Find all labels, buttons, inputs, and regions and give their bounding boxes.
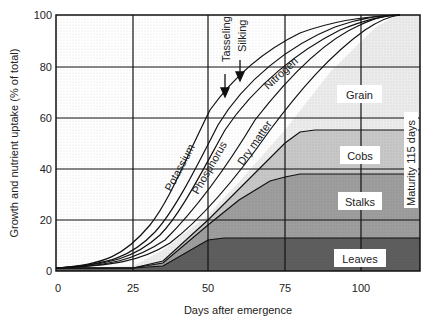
x-tick: 25 [127,282,139,294]
maturity-label: Maturity 115 days [404,112,418,208]
x-tick: 100 [352,282,370,294]
svg-text:Cobs: Cobs [347,150,373,162]
svg-text:Maturity 115 days: Maturity 115 days [405,119,417,206]
y-tick: 100 [34,9,52,21]
y-axis-title: Growth and nutrient uptake (% of total) [8,49,20,238]
y-tick: 0 [46,265,52,277]
chart: 0 20 40 60 80 100 0 25 50 75 100 Days af… [0,0,434,323]
area-label-cobs: Cobs [340,146,380,164]
y-tick: 80 [40,61,52,73]
y-tick: 20 [40,214,52,226]
x-tick: 75 [279,282,291,294]
area-label-grain: Grain [337,85,382,103]
svg-text:Grain: Grain [346,89,373,101]
y-axis-ticks: 0 20 40 60 80 100 [34,9,52,277]
y-tick: 60 [40,112,52,124]
x-tick: 50 [202,282,214,294]
stacked-areas [56,15,420,271]
area-label-leaves: Leaves [334,249,386,267]
area-label-stalks: Stalks [338,192,382,210]
x-axis-ticks: 0 25 50 75 100 [55,282,370,294]
x-tick: 0 [55,282,61,294]
tasseling-label: Tasseling [220,16,232,62]
silking-label: Silking [236,20,248,52]
y-tick: 40 [40,163,52,175]
x-axis-title: Days after emergence [184,304,292,316]
svg-text:Leaves: Leaves [342,253,378,265]
svg-text:Stalks: Stalks [345,196,375,208]
